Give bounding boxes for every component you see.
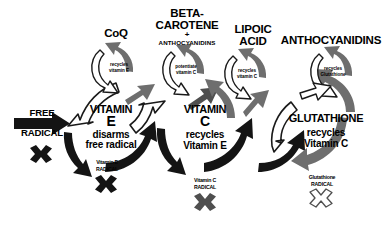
header-lipoic-acid-line1: LIPOIC: [222, 24, 284, 36]
lipoic-cycle-text-line1: recycles: [225, 68, 269, 73]
header-beta-carotene-line1: BETA-: [149, 8, 225, 20]
header-anthocyanidins: ANTHOCYANIDINS: [279, 35, 383, 47]
glutathione-name-line1: GLUTATHIONE: [281, 113, 371, 124]
vitamin-e-desc-line2: free radical: [68, 140, 154, 150]
free-radical-label-line1: FREE: [14, 108, 70, 118]
vitamin-c-radical-label-line2: RADICAL: [184, 185, 226, 191]
header-lipoic-acid-line2: ACID: [222, 36, 284, 48]
vitamin-c-desc-line1: recycles: [170, 130, 240, 140]
anthocyanidins-cycle-text-line1: recycles: [308, 66, 358, 71]
free-radical-label-line2: RADICAL: [10, 128, 74, 138]
diagram-canvas: FREE RADICAL CoQ recycles vitamin E BETA…: [0, 0, 383, 226]
glutathione-radical-x-icon: [310, 189, 332, 207]
glutathione-radical-label-line2: RADICAL: [299, 182, 345, 188]
beta-carotene-cycle-text-line1: potentiate: [162, 64, 210, 69]
vitamin-c-radical-x-icon: [194, 193, 216, 211]
vitamin-c-name-line2: C: [172, 114, 238, 128]
header-beta-carotene-sub: ANTHOCYANIDINS: [145, 40, 229, 46]
free-radical-x-icon: [30, 145, 52, 163]
glutathione-desc-line2: Vitamin C: [288, 139, 364, 149]
glutathione-desc-line1: recycles: [291, 128, 361, 138]
anthocyanidins-feed-white-arrow: [300, 83, 331, 100]
lipoic-cycle-text-line2: vitamin C: [225, 74, 269, 79]
vitamin-e-name-line2: E: [78, 114, 144, 128]
vitamin-e-radical-label-line2: RADICAL: [86, 167, 128, 173]
coq-feed-gray-arrow: [125, 84, 155, 105]
header-coq: CoQ: [84, 28, 148, 40]
vitamin-c-desc-line2: Vitamin E: [168, 141, 242, 151]
vitamin-e-radical-x-icon: [95, 175, 117, 193]
header-beta-carotene-plus: +: [149, 31, 225, 39]
coq-cycle-text-line2: vitamin E: [97, 68, 141, 73]
anthocyanidins-cycle-text-line2: Glutathione: [306, 72, 360, 77]
beta-carotene-cycle-text-line2: vitamin C: [162, 70, 210, 75]
coq-cycle-text-line1: recycles: [97, 62, 141, 67]
